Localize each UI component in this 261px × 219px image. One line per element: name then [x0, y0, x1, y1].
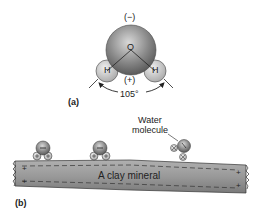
edge-charge-right-top: +: [236, 168, 241, 177]
jagged-edge-right: [246, 165, 249, 189]
edge-charge-right-bottom: +: [236, 181, 241, 190]
free-water-molecule: [171, 140, 191, 161]
diagram-canvas: [0, 0, 261, 219]
water-label-leader: [168, 134, 178, 141]
adsorbed-water-molecule-2: [90, 141, 110, 160]
surface-charge-left-top: +: [22, 164, 27, 173]
water-molecule-label-line1: Water: [138, 115, 162, 125]
axis-line-left: [89, 79, 98, 88]
clay-mineral-label: A clay mineral: [98, 170, 160, 181]
adsorbed-water-molecule-1: [33, 141, 52, 160]
oxygen-symbol: O: [127, 42, 134, 52]
surface-charge-left-bottom: +: [22, 177, 27, 186]
positive-charge-label: (+): [124, 75, 135, 85]
negative-charge-label: (−): [124, 12, 135, 22]
angle-arc-left: [99, 83, 118, 92]
angle-arc-right: [146, 83, 164, 92]
hydrogen-left-symbol: H: [104, 65, 111, 75]
hydrogen-right-symbol: H: [152, 65, 159, 75]
panel-a-label: (a): [68, 97, 79, 107]
axis-line-right: [164, 79, 173, 88]
bond-angle-label: 105°: [120, 89, 139, 99]
water-molecule-label-line2: molecule: [132, 125, 168, 135]
panel-b-label: (b): [15, 198, 27, 208]
